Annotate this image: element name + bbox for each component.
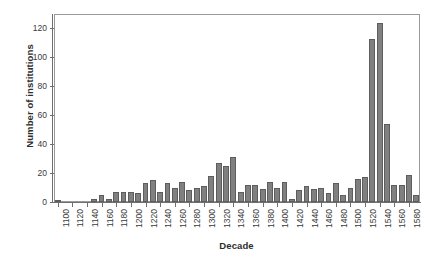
x-axis-tick-label: 1560 [398, 209, 407, 228]
bar [260, 189, 266, 202]
x-axis-tick [321, 203, 322, 207]
x-axis-tick-label: 1240 [164, 209, 173, 228]
bar [362, 177, 368, 202]
bar [55, 200, 61, 202]
bar [106, 199, 112, 202]
y-axis-tick-label: 20 [38, 168, 47, 178]
bar [186, 190, 192, 202]
x-axis-tick-label: 1100 [62, 209, 71, 227]
bar [296, 190, 302, 202]
bar [135, 193, 141, 202]
x-axis-tick-label: 1440 [311, 209, 320, 228]
x-axis-tick-label: 1360 [252, 209, 261, 228]
bar [230, 157, 236, 202]
bar-series [54, 14, 420, 202]
bar [143, 183, 149, 202]
bar [326, 193, 332, 202]
x-axis-tick [233, 203, 234, 207]
bar [267, 182, 273, 202]
x-axis-tick [380, 203, 381, 207]
x-axis-tick [175, 203, 176, 207]
bar [355, 179, 361, 202]
bar [399, 185, 405, 202]
bar [157, 192, 163, 202]
x-axis-tick-label: 1500 [354, 209, 363, 228]
x-axis-tick [72, 203, 73, 207]
bar-chart-figure: Number of institutions 020406080100120 1… [0, 0, 438, 261]
x-axis-tick-label: 1580 [413, 209, 422, 228]
x-axis-tick [394, 203, 395, 207]
bar [384, 124, 390, 202]
bar [194, 188, 200, 202]
x-axis-tick-label: 1520 [369, 209, 378, 228]
x-axis-tick-label: 1540 [384, 209, 393, 228]
bar [348, 188, 354, 202]
bar [245, 185, 251, 202]
x-axis-tick-label: 1300 [208, 209, 217, 228]
x-axis-tick-label: 1200 [135, 209, 144, 228]
x-axis-tick-label: 1380 [267, 209, 276, 228]
bar [113, 192, 119, 202]
y-axis-tick-label: 0 [42, 197, 47, 207]
bar [223, 166, 229, 202]
x-axis-tick [307, 203, 308, 207]
bar [377, 23, 383, 202]
x-axis-tick [263, 203, 264, 207]
bar [128, 192, 134, 202]
x-axis-tick-label: 1220 [150, 209, 159, 228]
bar [369, 39, 375, 202]
x-axis-tick [146, 203, 147, 207]
bar [172, 188, 178, 202]
bar [91, 199, 97, 202]
x-axis-tick [277, 203, 278, 207]
bar [340, 195, 346, 202]
bar [216, 163, 222, 202]
bar [289, 199, 295, 202]
y-axis-tick-label: 60 [38, 110, 47, 120]
bar [413, 195, 419, 202]
x-axis-tick-label: 1480 [340, 209, 349, 228]
bar [165, 183, 171, 202]
x-axis-tick [292, 203, 293, 207]
x-axis-tick [204, 203, 205, 207]
bar [274, 188, 280, 202]
x-axis-tick-label: 1460 [325, 209, 334, 228]
bar [304, 186, 310, 202]
x-axis-tick [116, 203, 117, 207]
y-axis-tick-label: 120 [33, 23, 47, 33]
bar [99, 195, 105, 202]
x-axis-tick [189, 203, 190, 207]
x-axis-tick [409, 203, 410, 207]
bar [311, 189, 317, 202]
x-axis-tick-label: 1260 [179, 209, 188, 228]
bar [252, 185, 258, 202]
x-axis-tick [131, 203, 132, 207]
x-axis-tick-label: 1340 [237, 209, 246, 228]
bar [406, 175, 412, 202]
y-axis-tick-label: 40 [38, 139, 47, 149]
x-axis-tick-label: 1280 [193, 209, 202, 228]
x-axis-tick [336, 203, 337, 207]
bar [238, 192, 244, 202]
bar [121, 192, 127, 202]
x-axis-tick [365, 203, 366, 207]
x-axis-tick-label: 1320 [223, 209, 232, 228]
bar [208, 176, 214, 202]
y-axis-tick [50, 202, 54, 203]
x-axis-tick-label: 1420 [296, 209, 305, 228]
bar [179, 182, 185, 202]
x-axis-tick-label: 1400 [281, 209, 290, 228]
x-axis-tick [87, 203, 88, 207]
x-axis-title: Decade [52, 240, 421, 251]
y-axis-tick-label: 100 [33, 52, 47, 62]
x-axis-tick [350, 203, 351, 207]
bar [282, 182, 288, 202]
x-axis-tick [102, 203, 103, 207]
bar [150, 180, 156, 202]
bar [333, 183, 339, 202]
x-axis-tick-label: 1140 [91, 209, 100, 227]
bar [201, 186, 207, 202]
x-axis-tick-label: 1180 [120, 209, 129, 227]
x-axis-tick [160, 203, 161, 207]
x-axis-tick [58, 203, 59, 207]
